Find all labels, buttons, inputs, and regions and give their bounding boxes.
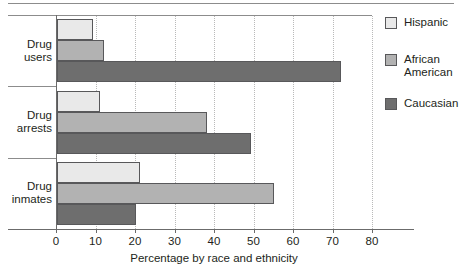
legend-label: African American	[404, 53, 453, 79]
x-axis-title: Percentage by race and ethnicity	[56, 252, 372, 264]
legend-swatch-icon	[385, 17, 397, 29]
category-label: Drugusers	[2, 38, 52, 64]
x-axis-tick	[96, 229, 97, 233]
x-axis-tick	[56, 229, 57, 233]
x-axis-tick-label: 40	[194, 235, 234, 247]
x-axis-line	[8, 229, 414, 230]
x-axis-tick	[293, 229, 294, 233]
figure-top-rule	[8, 3, 454, 4]
bar	[57, 183, 274, 204]
x-axis-tick-label: 10	[76, 235, 116, 247]
category-label: Druginmates	[2, 180, 52, 206]
legend-label: Caucasian	[404, 97, 458, 110]
legend-item[interactable]: African American	[385, 53, 453, 79]
x-axis-tick	[333, 229, 334, 233]
legend-swatch-icon	[385, 98, 397, 110]
x-axis-tick-label: 70	[313, 235, 353, 247]
legend-swatch-icon	[385, 54, 397, 66]
legend-item[interactable]: Caucasian	[385, 97, 458, 110]
legend-item[interactable]: Hispanic	[385, 16, 448, 29]
x-axis-tick	[175, 229, 176, 233]
x-axis-tick	[135, 229, 136, 233]
bar-chart-figure: 01020304050607080 DrugusersDrugarrestsDr…	[0, 0, 462, 278]
group-separator	[8, 158, 56, 159]
x-axis-tick-label: 0	[36, 235, 76, 247]
group-separator	[8, 86, 56, 87]
x-axis-tick-label: 50	[234, 235, 274, 247]
plot-top-border	[8, 15, 372, 16]
category-label: Drugarrests	[2, 109, 52, 135]
bar	[57, 204, 136, 225]
x-axis-tick-label: 60	[273, 235, 313, 247]
x-axis-tick-label: 30	[155, 235, 195, 247]
gridline	[333, 16, 335, 229]
plot-area: 01020304050607080 DrugusersDrugarrestsDr…	[56, 15, 372, 229]
category-label-line: Drug	[2, 38, 52, 51]
bar	[57, 133, 251, 154]
bar	[57, 162, 140, 183]
category-label-line: Drug	[2, 180, 52, 193]
bar	[57, 19, 93, 40]
category-label-line: users	[2, 51, 52, 64]
bar	[57, 112, 207, 133]
category-label-line: inmates	[2, 193, 52, 206]
x-axis-tick	[254, 229, 255, 233]
gridline	[372, 16, 374, 229]
gridline	[293, 16, 295, 229]
legend-label: Hispanic	[404, 16, 448, 29]
category-label-line: Drug	[2, 109, 52, 122]
x-axis-tick-label: 80	[352, 235, 392, 247]
x-axis-tick	[372, 229, 373, 233]
bar	[57, 40, 104, 61]
bar	[57, 61, 341, 82]
x-axis-tick-label: 20	[115, 235, 155, 247]
x-axis-tick	[214, 229, 215, 233]
bar	[57, 91, 100, 112]
category-label-line: arrests	[2, 122, 52, 135]
